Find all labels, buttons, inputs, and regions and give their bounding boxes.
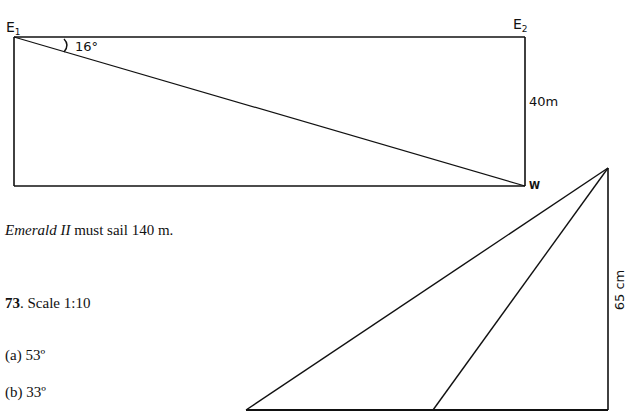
answer-text: must sail 140 m. [70,222,173,238]
side-label-40m: 40m [529,94,558,109]
rectangle-diagram [14,37,525,186]
part-b-answer: (b) 33º [5,384,46,401]
label-e2: E2 [513,16,528,34]
question-scale: . Scale 1:10 [20,295,90,311]
side-label-65cm: 65 cm [612,270,627,311]
question-number: 73 [5,295,20,311]
question-heading: 73. Scale 1:10 [5,295,90,312]
label-w: W [529,180,540,191]
label-e1: E1 [6,19,21,37]
answer-line: Emerald II must sail 140 m. [5,222,173,239]
triangle-diagram [246,168,608,410]
angle-label: 16° [75,39,98,54]
part-a-answer: (a) 53º [5,347,45,364]
boat-name: Emerald II [5,222,70,238]
figure-canvas: E1 E2 W 16° 40m 65 cm [0,0,629,413]
